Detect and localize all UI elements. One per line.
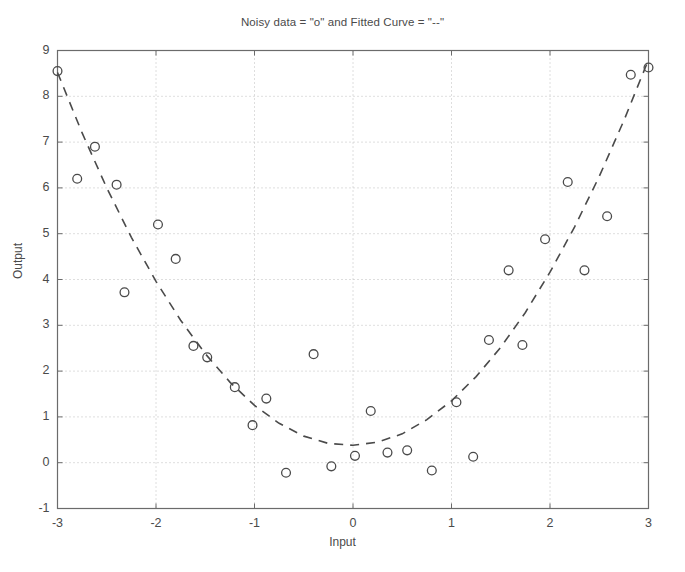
data-point-marker (327, 462, 336, 471)
y-tick-label: 0 (24, 456, 50, 469)
y-tick-label: -1 (24, 502, 50, 515)
data-point-marker (403, 446, 412, 455)
y-tick-label: 5 (24, 227, 50, 240)
data-point-marker (469, 452, 478, 461)
y-tick-label: 6 (24, 181, 50, 194)
data-point-marker (282, 468, 291, 477)
data-point-marker (518, 341, 527, 350)
grid-lines (58, 51, 649, 509)
x-tick-label: 0 (333, 517, 373, 530)
x-tick-label: 1 (432, 517, 472, 530)
data-point-marker (366, 407, 375, 416)
data-point-marker (230, 383, 239, 392)
data-point-marker (504, 266, 513, 275)
data-point-marker (91, 142, 100, 151)
x-tick-label: -3 (38, 517, 78, 530)
y-tick-label: 8 (24, 89, 50, 102)
data-point-marker (171, 254, 180, 263)
x-tick-label: 2 (530, 517, 570, 530)
data-point-marker (563, 178, 572, 187)
data-point-marker (351, 451, 360, 460)
y-tick-label: 1 (24, 410, 50, 423)
data-point-marker (248, 421, 257, 430)
data-point-marker (154, 220, 163, 229)
data-point-marker (73, 174, 82, 183)
x-tick-label: -2 (136, 517, 176, 530)
data-point-marker (262, 394, 271, 403)
data-point-marker (603, 212, 612, 221)
x-tick-label: 3 (629, 517, 669, 530)
data-point-marker (452, 398, 461, 407)
data-point-marker (203, 353, 212, 362)
data-point-marker (626, 70, 635, 79)
figure-canvas: Noisy data = "o" and Fitted Curve = "--"… (0, 0, 685, 572)
data-point-marker (309, 350, 318, 359)
data-point-marker (189, 342, 198, 351)
y-tick-label: 3 (24, 318, 50, 331)
y-tick-label: 2 (24, 364, 50, 377)
data-point-marker (485, 336, 494, 345)
data-point-marker (427, 466, 436, 475)
y-tick-label: 4 (24, 273, 50, 286)
data-point-marker (580, 266, 589, 275)
y-tick-label: 7 (24, 135, 50, 148)
data-point-marker (383, 448, 392, 457)
data-point-marker (120, 288, 129, 297)
data-point-marker (541, 235, 550, 244)
x-tick-label: -1 (235, 517, 275, 530)
plot-area (0, 0, 685, 572)
y-tick-label: 9 (24, 44, 50, 57)
data-point-marker (112, 180, 121, 189)
